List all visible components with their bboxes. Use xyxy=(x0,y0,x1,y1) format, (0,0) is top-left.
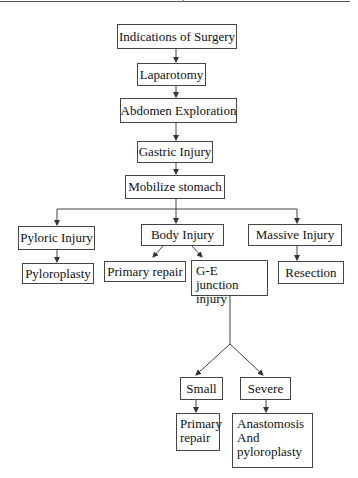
node-label: Severe xyxy=(248,382,283,396)
node-label: Small xyxy=(186,382,216,396)
node-anastomosis-and-pyloroplasty: Anastomosis And pyloroplasty xyxy=(232,413,313,468)
node-label-line2: And xyxy=(237,431,259,445)
node-label-line2: repair xyxy=(180,431,210,445)
node-label-line1: Primary xyxy=(180,417,222,431)
node-pyloroplasty: Pyloroplasty xyxy=(22,263,94,284)
node-label: Massive Injury xyxy=(256,228,334,242)
node-label-line2: injury xyxy=(196,292,227,306)
node-label-line1: G-E junction xyxy=(196,264,263,292)
node-primary-repair-small: Primary repair xyxy=(176,413,220,451)
node-indications-of-surgery: Indications of Surgery xyxy=(117,24,237,49)
node-body-injury: Body Injury xyxy=(141,224,224,246)
node-abdomen-exploration: Abdomen Exploration xyxy=(120,98,237,123)
node-gastric-injury: Gastric Injury xyxy=(137,141,213,163)
node-pyloric-injury: Pyloric Injury xyxy=(18,226,95,250)
node-label: Gastric Injury xyxy=(139,145,212,159)
node-label: Pyloroplasty xyxy=(25,267,91,281)
node-label: Laparotomy xyxy=(140,68,204,82)
node-label: Body Injury xyxy=(151,228,214,242)
node-primary-repair: Primary repair xyxy=(104,261,186,282)
node-severe: Severe xyxy=(240,377,291,400)
node-label: Mobilize stomach xyxy=(128,180,222,194)
node-massive-injury: Massive Injury xyxy=(248,224,342,246)
node-label: Indications of Surgery xyxy=(119,30,235,44)
node-ge-junction-injury: G-E junction injury xyxy=(191,260,268,296)
node-laparotomy: Laparotomy xyxy=(137,63,206,86)
node-mobilize-stomach: Mobilize stomach xyxy=(125,175,225,199)
node-resection: Resection xyxy=(278,261,344,284)
node-label: Resection xyxy=(285,266,336,280)
node-small: Small xyxy=(180,377,223,400)
node-label: Primary repair xyxy=(107,265,182,279)
node-label-line3: pyloroplasty xyxy=(237,445,302,459)
node-label-line1: Anastomosis xyxy=(237,417,304,431)
node-label: Abdomen Exploration xyxy=(121,104,237,118)
node-label: Pyloric Injury xyxy=(20,231,93,245)
